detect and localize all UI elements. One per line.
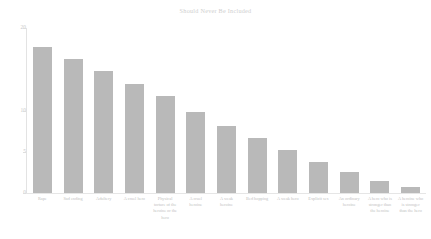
- bar-slot: [88, 28, 119, 193]
- bar: [186, 112, 205, 193]
- bar-slot: [58, 28, 89, 193]
- bar-series: [27, 28, 426, 193]
- x-axis-tick-label-slot: A cruel heroine: [180, 196, 211, 208]
- x-axis-tick-label-slot: Adultery: [88, 196, 119, 202]
- chart-title: Should Never Be Included: [0, 7, 431, 14]
- bar: [309, 162, 328, 193]
- x-axis-tick-label-slot: A cruel hero: [119, 196, 150, 202]
- bar: [278, 150, 297, 193]
- x-axis-tick-label: A cruel heroine: [183, 196, 209, 208]
- x-axis-tick-label: A cruel hero: [121, 196, 147, 202]
- x-axis-tick-label: A weak hero: [275, 196, 301, 202]
- x-axis-tick-label: Bed hopping: [244, 196, 270, 202]
- x-axis-tick-label: An ordinary heroine: [336, 196, 362, 208]
- x-axis-tick-label-slot: Rape: [27, 196, 58, 202]
- bar: [33, 47, 52, 193]
- x-axis-tick-label-slot: A weak hero: [273, 196, 304, 202]
- bar-chart: Should Never Be Included RapeSad endingA…: [0, 0, 431, 239]
- bar: [125, 84, 144, 193]
- x-axis-tick-label-slot: A weak heroine: [211, 196, 242, 208]
- x-axis-line: [26, 193, 426, 194]
- x-axis-tick-label-slot: Sad ending: [58, 196, 89, 202]
- x-axis-tick-label: A hero who is stronger than the heroine: [367, 196, 393, 215]
- bar: [94, 71, 113, 193]
- bar: [370, 181, 389, 193]
- bar: [64, 59, 83, 193]
- bar-slot: [334, 28, 365, 193]
- bar-slot: [211, 28, 242, 193]
- y-axis-tick-mark: [23, 152, 26, 153]
- bar: [217, 126, 236, 193]
- x-axis-tick-label: A heroine who is stronger than the hero: [398, 196, 424, 215]
- x-axis-tick-label-slot: Physical torture of the heroine or the h…: [150, 196, 181, 221]
- x-axis-tick-label: Adultery: [91, 196, 117, 202]
- x-axis-tick-label-slot: Bed hopping: [242, 196, 273, 202]
- x-axis-tick-label-slot: Explicit sex: [303, 196, 334, 202]
- x-axis-tick-label-slot: A heroine who is stronger than the hero: [395, 196, 426, 215]
- y-axis-tick-mark: [23, 111, 26, 112]
- x-axis-tick-label: Rape: [29, 196, 55, 202]
- y-axis-tick-mark: [23, 28, 26, 29]
- bar-slot: [395, 28, 426, 193]
- bar-slot: [27, 28, 58, 193]
- bar-slot: [242, 28, 273, 193]
- x-axis-tick-label: Physical torture of the heroine or the h…: [152, 196, 178, 221]
- bar-slot: [180, 28, 211, 193]
- bar: [401, 187, 420, 193]
- x-axis-tick-labels: RapeSad endingAdulteryA cruel heroPhysic…: [27, 196, 426, 221]
- x-axis-tick-label-slot: An ordinary heroine: [334, 196, 365, 208]
- x-axis-tick-label-slot: A hero who is stronger than the heroine: [365, 196, 396, 215]
- bar-slot: [119, 28, 150, 193]
- bar-slot: [150, 28, 181, 193]
- bar: [248, 138, 267, 193]
- bar: [156, 96, 175, 193]
- x-axis-tick-label: A weak heroine: [213, 196, 239, 208]
- x-axis-tick-label: Explicit sex: [306, 196, 332, 202]
- bar: [340, 172, 359, 193]
- bar-slot: [365, 28, 396, 193]
- bar-slot: [303, 28, 334, 193]
- x-axis-tick-label: Sad ending: [60, 196, 86, 202]
- bar-slot: [273, 28, 304, 193]
- y-axis-tick-mark: [23, 193, 26, 194]
